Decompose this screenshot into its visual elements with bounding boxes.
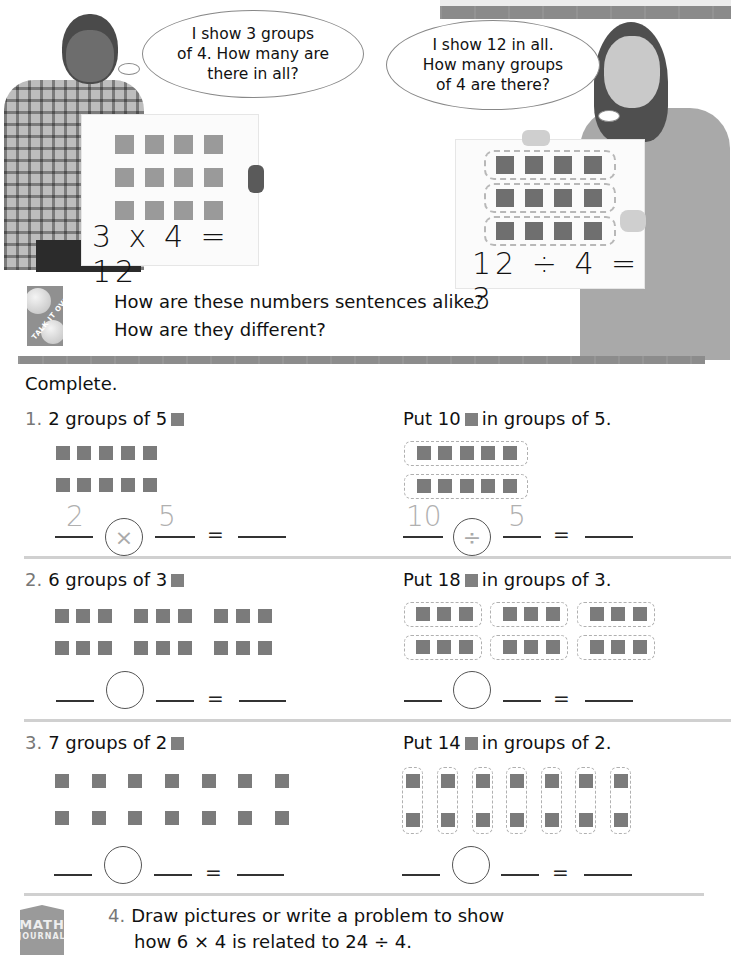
- operator-circle[interactable]: [452, 846, 490, 884]
- answer-blank[interactable]: [237, 874, 284, 876]
- counter-square: [258, 641, 272, 655]
- answer-blank[interactable]: [402, 874, 440, 876]
- counter-square: [121, 446, 135, 460]
- counter-square: [496, 222, 514, 240]
- exercise-text: Put 14: [403, 732, 461, 753]
- counter-square: [481, 479, 495, 493]
- counter-square: [496, 189, 514, 207]
- counter-square: [174, 168, 193, 187]
- answer-blank[interactable]: [56, 700, 94, 702]
- equals-sign: =: [553, 686, 570, 710]
- equals-sign: =: [207, 686, 224, 710]
- counter-square: [55, 641, 69, 655]
- counter-square: [441, 813, 455, 827]
- counter-square: [460, 479, 474, 493]
- girl-hand: [522, 130, 550, 146]
- counter-square: [56, 478, 70, 492]
- answer-blank[interactable]: [155, 536, 195, 538]
- math-journal-icon: MATH JOURNAL: [20, 905, 64, 955]
- girl-division-board: 12 ÷ 4 = 3: [456, 140, 644, 288]
- exercise-text: 2 groups of 5: [48, 408, 167, 429]
- exercise-number: 2.: [25, 569, 42, 590]
- answer-blank[interactable]: [239, 700, 286, 702]
- counter-square: [178, 609, 192, 623]
- counter-square: [633, 607, 647, 621]
- answer-blank[interactable]: [154, 874, 192, 876]
- counter-square: [417, 446, 431, 460]
- operator-circle[interactable]: ÷: [453, 518, 491, 556]
- counter-square: [524, 607, 538, 621]
- answer-blank[interactable]: [54, 874, 92, 876]
- counter-square: [174, 135, 193, 154]
- counter-square: [584, 222, 602, 240]
- counter-square: [554, 222, 572, 240]
- exercise-text: 6 groups of 3: [48, 569, 167, 590]
- journal-icon-text: MATH: [19, 918, 65, 932]
- counter-square: [503, 446, 517, 460]
- counter-square: [633, 640, 647, 654]
- operator-circle[interactable]: [453, 671, 491, 709]
- counter-square: [92, 774, 106, 788]
- counter-square: [614, 774, 628, 788]
- answer-blank[interactable]: [585, 536, 633, 538]
- answer-blank[interactable]: [503, 536, 541, 538]
- counter-square: [579, 813, 593, 827]
- operator-circle[interactable]: [106, 671, 144, 709]
- exercise-3-right-label: Put 14in groups of 2.: [403, 732, 611, 753]
- counter-square: [437, 640, 451, 654]
- counter-square: [460, 446, 474, 460]
- operator-circle[interactable]: ×: [105, 518, 143, 556]
- exercise-4: 4.Draw pictures or write a problem to sh…: [108, 903, 504, 955]
- counter-square: [459, 640, 473, 654]
- answer-blank[interactable]: [403, 536, 443, 538]
- traced-answer: 2: [66, 500, 84, 533]
- answer-blank[interactable]: [156, 700, 194, 702]
- exercise-text: in groups of 2.: [482, 732, 612, 753]
- counter-square: [76, 641, 90, 655]
- counter-square: [76, 609, 90, 623]
- counter-square: [98, 641, 112, 655]
- exercise-text: Draw pictures or write a problem to show: [131, 905, 504, 926]
- counter-square: [416, 640, 430, 654]
- counter-square: [98, 609, 112, 623]
- counter-square: [55, 811, 69, 825]
- counter-square: [202, 774, 216, 788]
- counter-square: [238, 774, 252, 788]
- counter-square: [503, 607, 517, 621]
- answer-blank[interactable]: [404, 700, 442, 702]
- counter-square: [510, 774, 524, 788]
- counter-square: [438, 479, 452, 493]
- counter-square: [459, 607, 473, 621]
- board-equation: 3 x 4 = 12: [92, 219, 258, 289]
- counter-square: [145, 201, 164, 220]
- counter-square: [121, 478, 135, 492]
- answer-blank[interactable]: [503, 700, 541, 702]
- talk-question-1: How are these numbers sentences alike?: [114, 288, 484, 316]
- answer-blank[interactable]: [55, 536, 93, 538]
- counter-square: [554, 156, 572, 174]
- answer-blank[interactable]: [585, 700, 633, 702]
- counter-square: [525, 156, 543, 174]
- counter-square: [128, 811, 142, 825]
- exercise-text: in groups of 3.: [482, 569, 612, 590]
- exercise-text: in groups of 5.: [482, 408, 612, 429]
- board-equation: 12 ÷ 4 = 3: [472, 246, 644, 316]
- answer-blank[interactable]: [238, 536, 286, 538]
- counter-square: [524, 640, 538, 654]
- operator-circle[interactable]: [104, 846, 142, 884]
- bubble-line: of 4 are there?: [423, 75, 563, 95]
- counter-square: [156, 641, 170, 655]
- instructions: Complete.: [25, 373, 117, 394]
- counter-square: [416, 607, 430, 621]
- counter-square: [128, 774, 142, 788]
- exercise-2-right-label: Put 18in groups of 3.: [403, 569, 611, 590]
- answer-blank[interactable]: [584, 874, 632, 876]
- counter-square: [77, 478, 91, 492]
- answer-blank[interactable]: [501, 874, 539, 876]
- header-band: [440, 6, 731, 19]
- counter-square: [438, 446, 452, 460]
- talk-question-2: How are they different?: [114, 316, 326, 344]
- equals-sign: =: [205, 860, 222, 884]
- counter-square: [476, 813, 490, 827]
- counter-square: [590, 640, 604, 654]
